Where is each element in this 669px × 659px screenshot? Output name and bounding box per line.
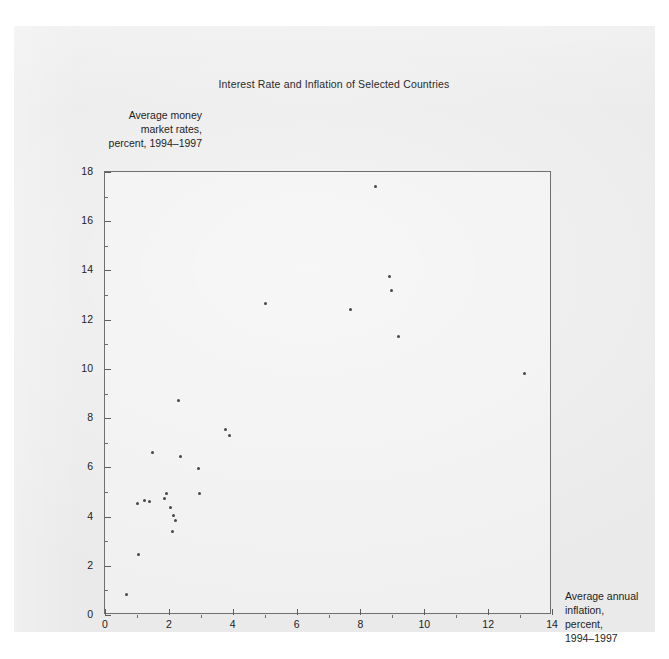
- x-tick-label: 10: [418, 618, 430, 630]
- data-point: [143, 499, 146, 502]
- data-point: [171, 530, 174, 533]
- x-axis-title-line-3: percent,: [565, 617, 669, 631]
- data-point: [151, 451, 154, 454]
- y-axis-title-line-2: market rates,: [54, 122, 202, 136]
- y-tick-label: 4: [87, 510, 93, 522]
- data-point: [174, 519, 177, 522]
- y-tick-label: 2: [87, 559, 93, 571]
- y-tick-label: 18: [81, 165, 93, 177]
- x-minor-tick: [201, 615, 202, 618]
- x-minor-tick: [392, 615, 393, 618]
- screenshot-page: Interest Rate and Inflation of Selected …: [0, 0, 669, 659]
- x-minor-tick: [329, 615, 330, 618]
- y-axis-title: Average money market rates, percent, 199…: [54, 108, 202, 150]
- x-axis-title-line-2: inflation,: [565, 603, 669, 617]
- x-tick-label: 12: [482, 618, 494, 630]
- x-minor-tick: [137, 615, 138, 618]
- x-tick-label: 6: [294, 618, 300, 630]
- data-point: [165, 492, 168, 495]
- x-minor-tick: [456, 615, 457, 618]
- y-tick-label: 8: [87, 411, 93, 423]
- data-point: [179, 455, 182, 458]
- data-point: [197, 467, 200, 470]
- data-point: [169, 506, 172, 509]
- chart-title: Interest Rate and Inflation of Selected …: [104, 78, 564, 90]
- x-tick-label: 2: [166, 618, 172, 630]
- x-tick-label: 14: [546, 618, 558, 630]
- x-axis-title-line-4: 1994–1997: [565, 631, 669, 645]
- x-tick-label: 4: [230, 618, 236, 630]
- x-tick-mark: [552, 609, 553, 615]
- data-point: [148, 500, 151, 503]
- data-point: [374, 185, 377, 188]
- data-point: [228, 434, 231, 437]
- y-tick-label: 14: [81, 263, 93, 275]
- plot-area: 024681012141618 02468101214: [104, 171, 551, 614]
- data-point: [198, 492, 201, 495]
- y-tick-mark: [105, 615, 111, 616]
- data-point: [390, 289, 393, 292]
- x-minor-tick: [520, 615, 521, 618]
- y-tick-label: 0: [87, 608, 93, 620]
- x-minor-tick: [265, 615, 266, 618]
- data-point: [523, 372, 526, 375]
- scatter-series: [105, 172, 552, 615]
- y-tick-label: 16: [81, 214, 93, 226]
- x-tick-label: 0: [102, 618, 108, 630]
- x-tick-label: 8: [358, 618, 364, 630]
- data-point: [163, 497, 166, 500]
- y-tick-label: 12: [81, 313, 93, 325]
- data-point: [172, 514, 175, 517]
- data-point: [224, 428, 227, 431]
- data-point: [177, 399, 180, 402]
- data-point: [388, 275, 391, 278]
- data-point: [264, 302, 267, 305]
- data-point: [397, 335, 400, 338]
- data-point: [349, 308, 352, 311]
- x-axis-title-line-1: Average annual: [565, 589, 669, 603]
- y-tick-label: 6: [87, 460, 93, 472]
- y-axis-title-line-3: percent, 1994–1997: [54, 136, 202, 150]
- scanned-page: Interest Rate and Inflation of Selected …: [14, 26, 655, 632]
- data-point: [125, 593, 128, 596]
- data-point: [136, 502, 139, 505]
- x-axis-title: Average annual inflation, percent, 1994–…: [565, 589, 669, 645]
- y-tick-label: 10: [81, 362, 93, 374]
- data-point: [137, 553, 140, 556]
- y-axis-title-line-1: Average money: [54, 108, 202, 122]
